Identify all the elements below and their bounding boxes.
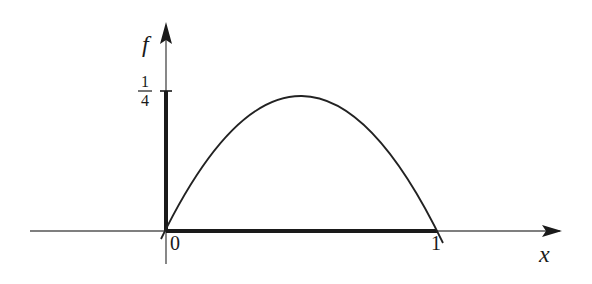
curve-f [161,96,443,243]
x-axis-label: x [538,241,550,267]
y-axis-label: f [142,31,152,57]
origin-label: 0 [170,232,180,254]
function-plot: f x 0 1 1 4 [0,0,592,284]
y-tick-label-numerator: 1 [141,73,149,90]
y-tick-label-denominator: 4 [141,92,149,109]
x-tick-label-one: 1 [431,232,441,254]
